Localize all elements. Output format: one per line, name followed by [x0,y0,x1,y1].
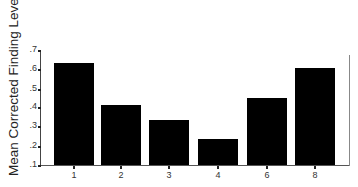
bar-1 [54,63,94,165]
x-tick-label: 4 [212,170,224,180]
bar-4 [198,139,238,165]
y-tick [38,107,41,109]
bar-3 [149,120,189,165]
y-tick [38,69,41,71]
x-tick [73,166,75,169]
y-axis-label: Mean Corrected Finding Level r [6,16,22,176]
y-tick-label: .2 [26,140,37,150]
x-tick [168,166,170,169]
x-tick [217,166,219,169]
y-tick [38,89,41,91]
y-tick [38,50,41,52]
y-tick-label: .6 [26,63,37,73]
y-tick-label: .4 [26,101,37,111]
x-axis-line [40,165,350,166]
bar-6 [247,98,287,165]
bar-2 [101,105,141,165]
y-tick-label: .5 [26,83,37,93]
x-tick [120,166,122,169]
y-tick [38,126,41,128]
y-tick-label: .1 [26,159,37,169]
x-tick [314,166,316,169]
x-tick-label: 8 [309,170,321,180]
x-tick [266,166,268,169]
y-tick [38,146,41,148]
x-tick-label: 3 [163,170,175,180]
x-tick-label: 6 [261,170,273,180]
plot-area: .1 .2 .3 .4 .5 .6 .7 123468 [40,40,350,166]
bar-8 [295,68,335,165]
x-tick-label: 1 [68,170,80,180]
y-tick-label: .7 [26,44,37,54]
x-tick-label: 2 [115,170,127,180]
truncated-caption [34,0,354,3]
right-border-line [349,55,350,166]
y-tick-label: .3 [26,120,37,130]
y-tick [38,165,41,167]
